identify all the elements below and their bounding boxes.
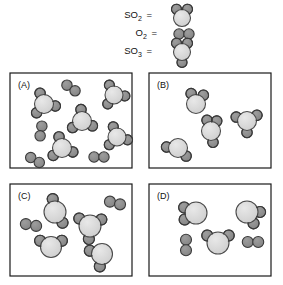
- oxygen-atom: [181, 245, 192, 256]
- sulfur-atom: [174, 44, 191, 61]
- oxygen-atom: [253, 237, 264, 248]
- panel-d-label: (D): [157, 191, 170, 201]
- oxygen-atom: [104, 196, 115, 207]
- oxygen-atom: [31, 220, 42, 231]
- sulfur-atom: [105, 86, 123, 104]
- panel-a: (A): [10, 73, 133, 168]
- oxygen-atom: [70, 86, 80, 96]
- oxygen-atom: [34, 157, 44, 167]
- sulfur-atom: [236, 201, 258, 223]
- panel-c: (C): [10, 184, 132, 276]
- molecule-diagram-svg: SO2 =O2 =SO3 = (A)(B)(C)(D): [0, 0, 283, 285]
- panel-a-label: (A): [18, 80, 30, 90]
- sulfur-atom: [187, 95, 206, 114]
- sulfur-atom: [174, 10, 191, 27]
- oxygen-atom: [181, 234, 192, 245]
- sulfur-atom: [92, 244, 113, 265]
- oxygen-atom: [89, 152, 99, 162]
- oxygen-atom: [35, 131, 45, 141]
- oxygen-atom: [115, 199, 126, 210]
- panel-b-label: (B): [157, 80, 169, 90]
- oxygen-atom: [184, 29, 194, 39]
- oxygen-atom: [99, 152, 109, 162]
- sulfur-atom: [169, 139, 188, 158]
- sulfur-atom: [73, 112, 92, 131]
- sulfur-atom: [207, 232, 229, 254]
- oxygen-atom: [174, 29, 184, 39]
- panel-d: (D): [149, 184, 271, 276]
- oxygen-atom: [37, 121, 47, 131]
- figure-canvas: SO2 =O2 =SO3 = (A)(B)(C)(D): [0, 0, 283, 285]
- panel-c-label: (C): [18, 191, 31, 201]
- sulfur-atom: [185, 202, 207, 224]
- panel-b: (B): [149, 73, 271, 168]
- sulfur-atom: [79, 215, 101, 237]
- oxygen-atom: [20, 219, 31, 230]
- oxygen-atom: [242, 237, 253, 248]
- sulfur-atom: [41, 237, 62, 258]
- sulfur-atom: [44, 201, 66, 223]
